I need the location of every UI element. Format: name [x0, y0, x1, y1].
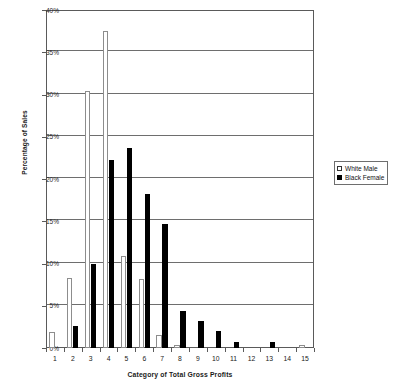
bar-group	[153, 10, 171, 348]
white-square-icon	[337, 166, 342, 171]
bar-black-female-cat-7	[162, 224, 167, 348]
bar-black-female-cat-6	[145, 194, 150, 348]
bar-black-female-cat-5	[127, 148, 132, 348]
bar-black-female-cat-8	[180, 311, 185, 348]
black-square-icon	[337, 175, 342, 180]
bar-group	[207, 10, 225, 348]
bar-white-male-cat-7	[156, 335, 161, 348]
bar-group	[278, 10, 296, 348]
bar-white-male-cat-2	[67, 278, 72, 348]
legend-label: Black Female	[345, 173, 384, 182]
x-tick-mark	[243, 348, 244, 352]
bar-white-male-cat-1	[49, 332, 54, 348]
x-tick-mark	[189, 348, 190, 352]
bar-black-female-cat-9	[198, 321, 203, 348]
bar-group	[260, 10, 278, 348]
x-axis-title: Category of Total Gross Profits	[46, 371, 314, 378]
x-tick-mark	[100, 348, 101, 352]
x-tick-mark	[278, 348, 279, 352]
bar-black-female-cat-10	[216, 331, 221, 348]
bar-group	[135, 10, 153, 348]
bar-white-male-cat-5	[121, 256, 126, 348]
x-tick-mark	[171, 348, 172, 352]
bars-layer	[46, 10, 314, 348]
bar-black-female-cat-4	[109, 160, 114, 348]
bar-white-male-cat-6	[139, 279, 144, 348]
bar-black-female-cat-2	[73, 326, 78, 348]
x-tick-mark	[314, 348, 315, 352]
bar-group	[82, 10, 100, 348]
bar-group	[100, 10, 118, 348]
chart-legend: White MaleBlack Female	[334, 161, 388, 185]
legend-item-white-male: White Male	[337, 164, 384, 173]
bar-black-female-cat-13	[270, 342, 275, 348]
x-tick-mark	[225, 348, 226, 352]
x-tick-mark	[117, 348, 118, 352]
x-tick-mark	[135, 348, 136, 352]
x-tick-mark	[296, 348, 297, 352]
bar-black-female-cat-11	[234, 342, 239, 348]
bar-group	[64, 10, 82, 348]
x-tick-mark	[46, 348, 47, 352]
x-tick-label-15: 15	[295, 355, 315, 362]
x-tick-mark	[153, 348, 154, 352]
x-tick-mark	[260, 348, 261, 352]
bar-group	[171, 10, 189, 348]
bar-white-male-cat-3	[85, 91, 90, 348]
legend-item-black-female: Black Female	[337, 173, 384, 182]
legend-label: White Male	[345, 164, 378, 173]
x-tick-mark	[64, 348, 65, 352]
x-tick-mark	[207, 348, 208, 352]
bar-group	[296, 10, 314, 348]
bar-white-male-cat-15	[299, 345, 304, 348]
x-tick-mark	[82, 348, 83, 352]
y-axis-title: Percentage of Sales	[21, 83, 28, 203]
bar-white-male-cat-4	[103, 31, 108, 348]
bar-group	[243, 10, 261, 348]
bar-group	[225, 10, 243, 348]
bar-chart: Percentage of Sales 0%5%10%15%20%25%30%3…	[0, 0, 410, 387]
bar-group	[46, 10, 64, 348]
bar-white-male-cat-8	[174, 345, 179, 348]
bar-group	[117, 10, 135, 348]
bar-group	[189, 10, 207, 348]
bar-black-female-cat-3	[91, 264, 96, 348]
